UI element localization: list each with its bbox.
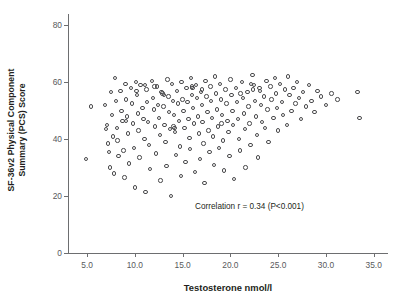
x-axis-title: Testosterone nmol/l — [68, 282, 388, 293]
data-point — [319, 94, 323, 98]
x-tick-mark — [278, 253, 279, 257]
data-point — [163, 140, 167, 144]
data-point — [230, 109, 234, 113]
data-point — [103, 103, 107, 107]
data-point — [238, 148, 242, 152]
data-point — [208, 84, 212, 88]
data-point — [126, 131, 130, 135]
data-point — [189, 76, 193, 80]
data-point — [174, 153, 178, 157]
data-point — [245, 90, 249, 94]
data-point — [104, 127, 108, 131]
data-point — [207, 150, 211, 154]
data-point — [234, 86, 238, 90]
data-point — [217, 146, 221, 150]
data-point — [130, 101, 134, 105]
data-point — [312, 110, 316, 114]
data-point — [257, 86, 261, 90]
x-tick-label: 15.0 — [174, 260, 190, 270]
data-point — [124, 119, 128, 123]
data-point — [236, 117, 240, 121]
data-point — [179, 80, 183, 84]
x-tick-mark — [135, 253, 136, 257]
data-point — [180, 97, 184, 101]
data-point — [140, 106, 144, 110]
y-axis-title: SF-36v2 Physical Component Summary (PCS)… — [0, 0, 34, 260]
data-point — [134, 80, 138, 84]
data-point — [355, 90, 359, 94]
plot-area: 020406080 5.010.015.020.025.030.035.0 Co… — [68, 14, 388, 253]
x-tick-mark — [326, 253, 327, 257]
data-point — [105, 123, 109, 127]
y-tick-label: 40 — [53, 134, 62, 144]
data-point — [266, 140, 270, 144]
data-point — [297, 96, 301, 100]
data-point — [250, 73, 254, 77]
data-point — [108, 165, 112, 169]
data-point — [218, 82, 222, 86]
data-point — [219, 97, 223, 101]
data-point — [249, 82, 253, 86]
data-point — [136, 128, 140, 132]
data-point — [307, 83, 311, 87]
data-point — [304, 104, 308, 108]
data-point — [119, 109, 123, 113]
data-point — [152, 107, 156, 111]
data-point — [206, 128, 210, 132]
data-point — [210, 116, 214, 120]
data-point — [190, 86, 194, 90]
data-point — [109, 90, 113, 94]
data-point — [229, 93, 233, 97]
data-point — [324, 103, 328, 107]
data-point — [227, 154, 231, 158]
data-point — [156, 103, 160, 107]
y-tick-mark — [64, 25, 68, 26]
x-tick-label: 10.0 — [127, 260, 143, 270]
data-point — [232, 177, 236, 181]
data-point — [231, 123, 235, 127]
data-point — [329, 91, 333, 95]
y-tick-mark — [64, 139, 68, 140]
data-point — [135, 93, 139, 97]
data-point — [110, 113, 114, 117]
data-point — [196, 114, 200, 118]
y-tick-mark — [64, 253, 68, 254]
x-tick-mark — [230, 253, 231, 257]
data-point — [152, 84, 156, 88]
data-point — [153, 124, 157, 128]
data-point — [268, 84, 272, 88]
data-point — [203, 79, 207, 83]
y-tick-mark — [64, 82, 68, 83]
data-point — [129, 86, 133, 90]
data-point — [301, 90, 305, 94]
data-point — [166, 94, 170, 98]
data-point — [281, 113, 285, 117]
data-point — [280, 100, 284, 104]
data-point — [182, 126, 186, 130]
data-point — [283, 87, 287, 91]
data-point — [225, 119, 229, 123]
data-point — [335, 97, 339, 101]
y-axis-line — [68, 14, 69, 253]
data-point — [243, 127, 247, 131]
x-tick-label: 25.0 — [270, 260, 286, 270]
x-tick-label: 35.0 — [366, 260, 382, 270]
data-point — [162, 123, 166, 127]
data-point — [200, 120, 204, 124]
data-point — [172, 113, 176, 117]
data-point — [141, 117, 145, 121]
data-point — [269, 97, 273, 101]
data-point — [185, 100, 189, 104]
data-point — [271, 116, 275, 120]
data-point — [124, 97, 128, 101]
data-point — [240, 80, 244, 84]
data-point — [122, 175, 126, 179]
data-point — [115, 138, 119, 142]
data-point — [89, 104, 93, 108]
scatter-plot-figure: SF-36v2 Physical Component Summary (PCS)… — [0, 0, 396, 302]
data-point — [114, 99, 118, 103]
data-point — [106, 141, 110, 145]
data-point — [190, 93, 194, 97]
x-tick-mark — [87, 253, 88, 257]
data-point — [171, 99, 175, 103]
